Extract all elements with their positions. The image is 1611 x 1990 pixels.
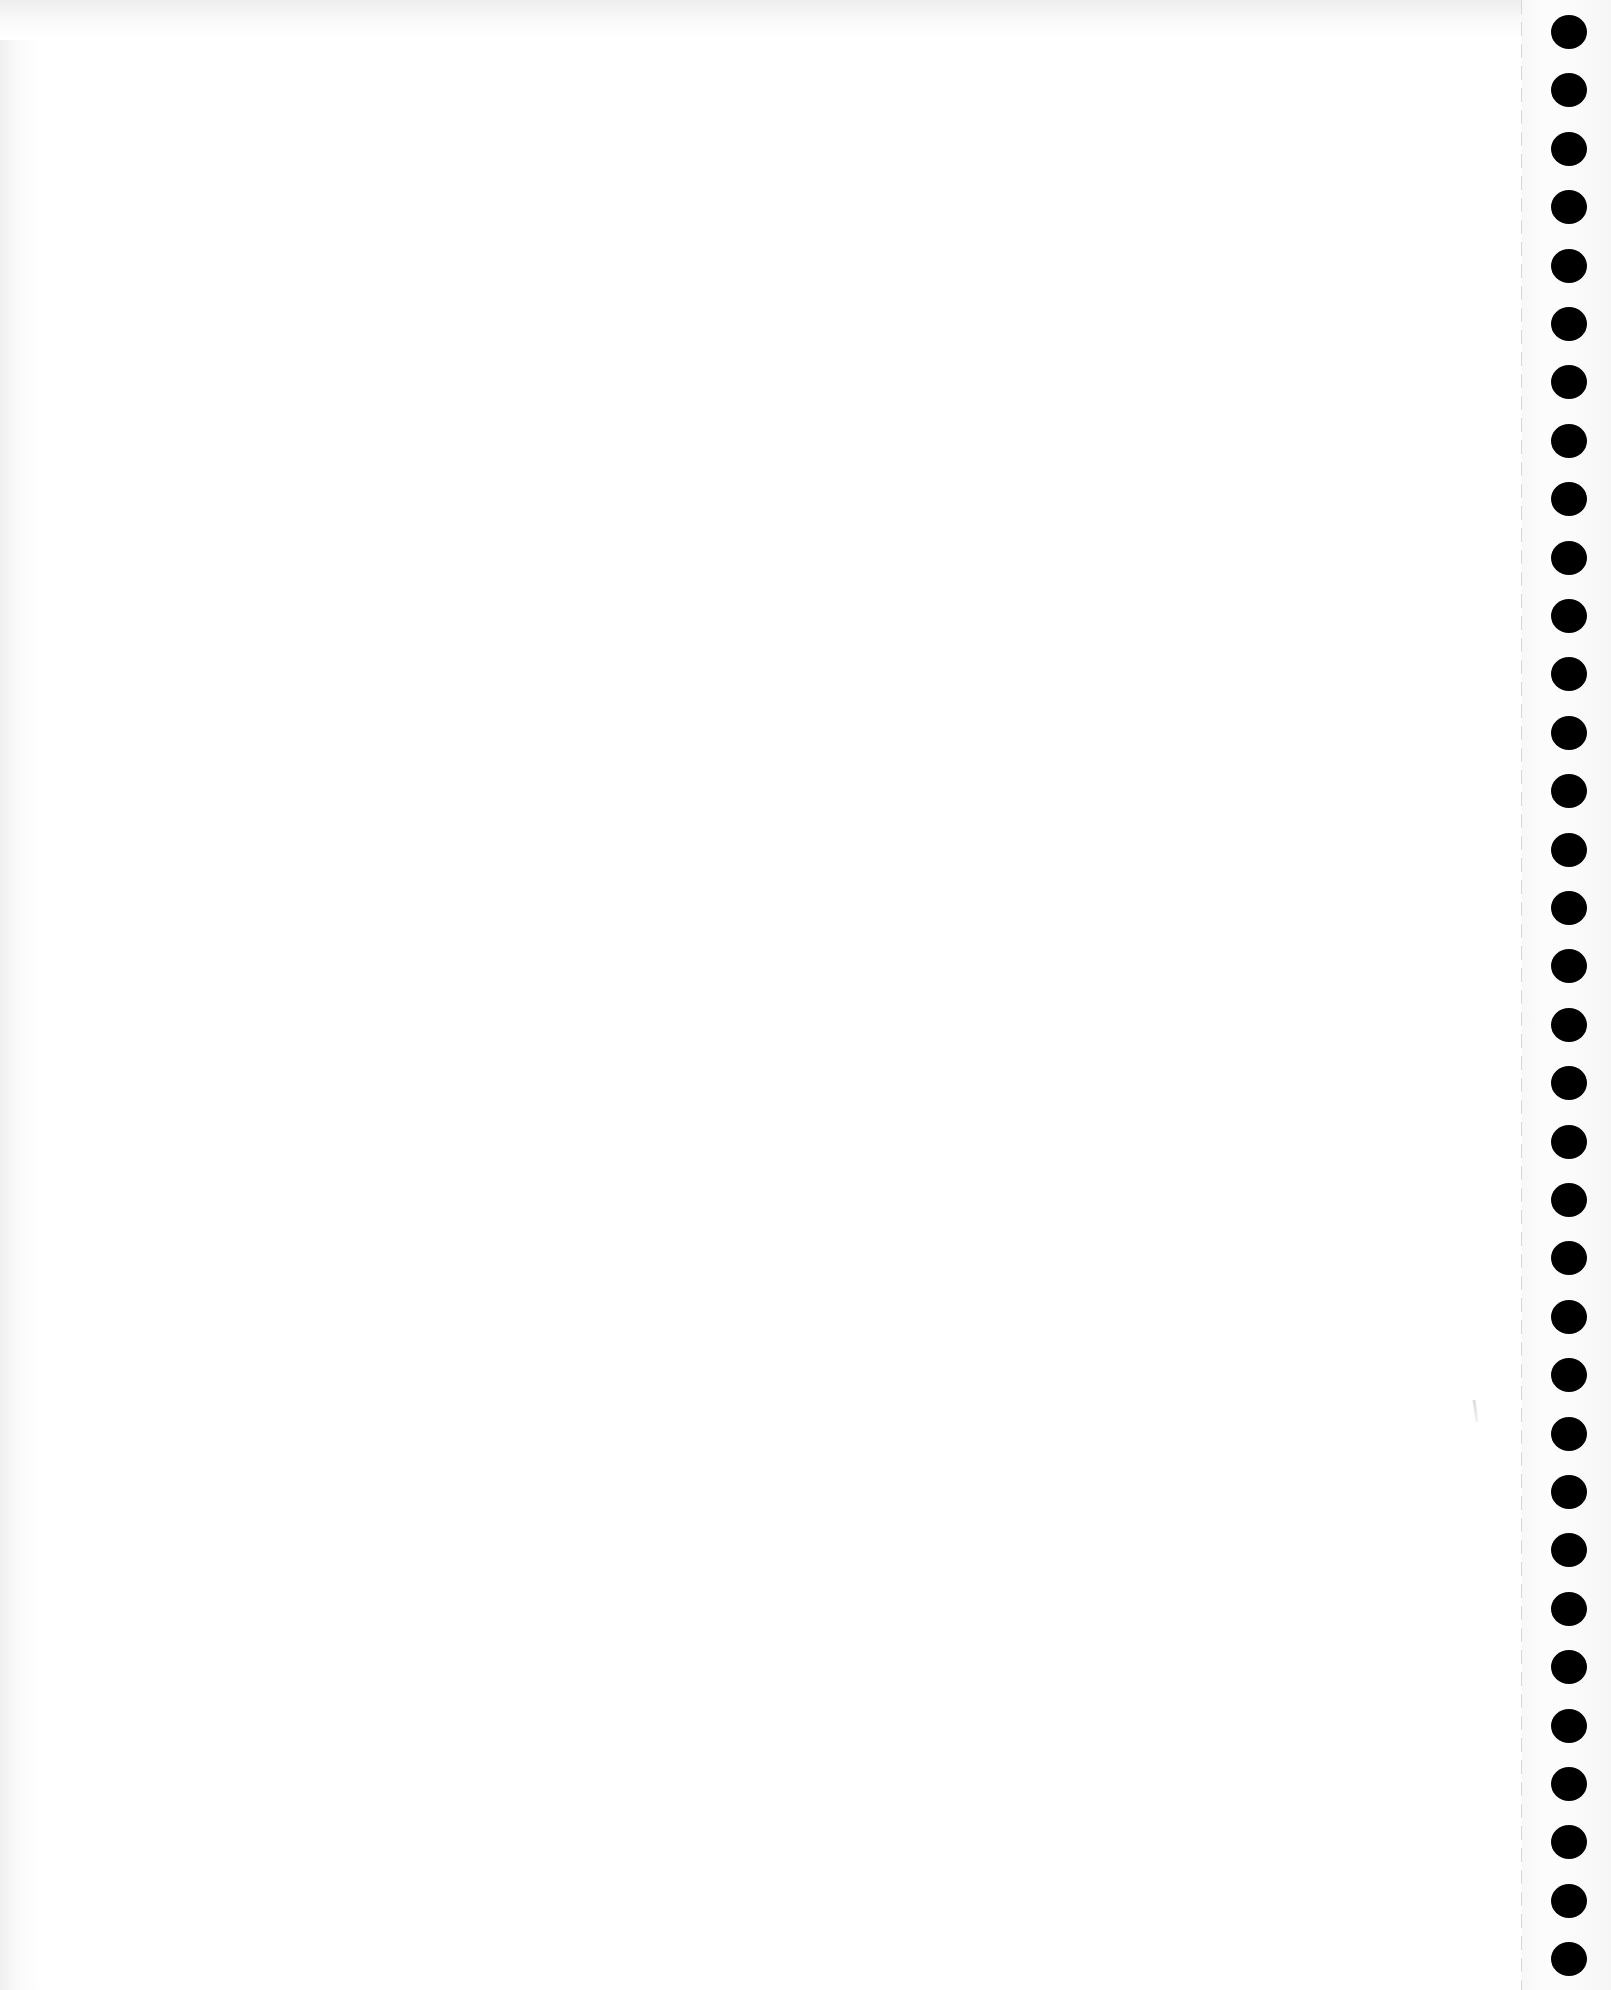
punch-hole bbox=[1551, 190, 1587, 224]
punch-hole bbox=[1551, 541, 1587, 575]
punch-hole bbox=[1551, 1241, 1587, 1275]
punch-hole bbox=[1551, 1884, 1587, 1918]
punch-hole bbox=[1551, 1125, 1587, 1159]
punch-hole bbox=[1551, 1008, 1587, 1042]
punch-hole bbox=[1551, 1358, 1587, 1392]
punch-hole bbox=[1551, 657, 1587, 691]
punch-hole bbox=[1551, 73, 1587, 107]
punch-hole bbox=[1551, 1183, 1587, 1217]
punch-hole bbox=[1551, 1592, 1587, 1626]
punch-hole bbox=[1551, 774, 1587, 808]
punch-hole bbox=[1551, 482, 1587, 516]
punch-hole bbox=[1551, 365, 1587, 399]
perforation-line bbox=[1521, 0, 1522, 1990]
punch-hole bbox=[1551, 716, 1587, 750]
punch-hole bbox=[1551, 949, 1587, 983]
punch-hole bbox=[1551, 1066, 1587, 1100]
punch-hole bbox=[1551, 1767, 1587, 1801]
punch-hole bbox=[1551, 599, 1587, 633]
punch-hole bbox=[1551, 1533, 1587, 1567]
punch-hole bbox=[1551, 1942, 1587, 1976]
punch-hole bbox=[1551, 307, 1587, 341]
punch-hole bbox=[1551, 1475, 1587, 1509]
punch-hole bbox=[1551, 1417, 1587, 1451]
punch-holes-column bbox=[1551, 0, 1591, 1990]
punch-hole bbox=[1551, 833, 1587, 867]
punch-hole bbox=[1551, 1300, 1587, 1334]
punch-hole bbox=[1551, 15, 1587, 49]
punch-hole bbox=[1551, 1709, 1587, 1743]
punch-hole bbox=[1551, 891, 1587, 925]
punch-hole bbox=[1551, 1650, 1587, 1684]
punch-hole bbox=[1551, 249, 1587, 283]
punch-hole bbox=[1551, 1825, 1587, 1859]
paper-speck bbox=[1472, 1400, 1478, 1422]
punch-hole bbox=[1551, 424, 1587, 458]
blank-notebook-page bbox=[0, 0, 1611, 1990]
punch-hole bbox=[1551, 132, 1587, 166]
